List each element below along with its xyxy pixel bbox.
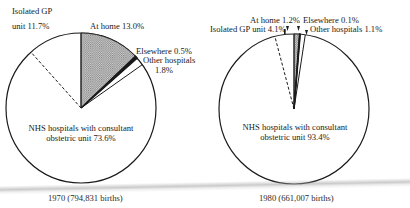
label-isolated-gp-1970: Isolated GP (12, 6, 53, 16)
label-nhs-1980-value: obstetric unit 93.4% (260, 132, 329, 142)
pointer-elsewhere-icon (297, 26, 300, 31)
label-isolated-gp-1970-value: unit 11.7% (12, 21, 49, 31)
pointer-isolated-icon (284, 29, 286, 34)
pie-1970 (6, 33, 156, 183)
caption-1970: 1970 (794,831 births) (48, 193, 123, 203)
pointer-other-icon (305, 30, 308, 35)
label-other-hospitals-1980: Other hospitals 1.1% (310, 24, 382, 34)
label-at-home-1970: At home 13.0% (90, 21, 144, 31)
label-nhs-1980: NHS hospitals with consultant (243, 122, 348, 132)
label-isolated-gp-1980: Isolated GP unit 4.1% (210, 24, 286, 34)
label-other-hospitals-1970: Other hospitals (143, 55, 196, 65)
label-nhs-1970-value: obstetric unit 73.6% (46, 133, 115, 143)
label-nhs-1970: NHS hospitals with consultant (29, 123, 134, 133)
label-other-hospitals-1970-value: 1.8% (155, 65, 173, 75)
pointer-at-home-icon (286, 26, 289, 31)
pie-1980 (219, 34, 369, 184)
caption-1980: 1980 (661,007 births) (259, 193, 334, 203)
